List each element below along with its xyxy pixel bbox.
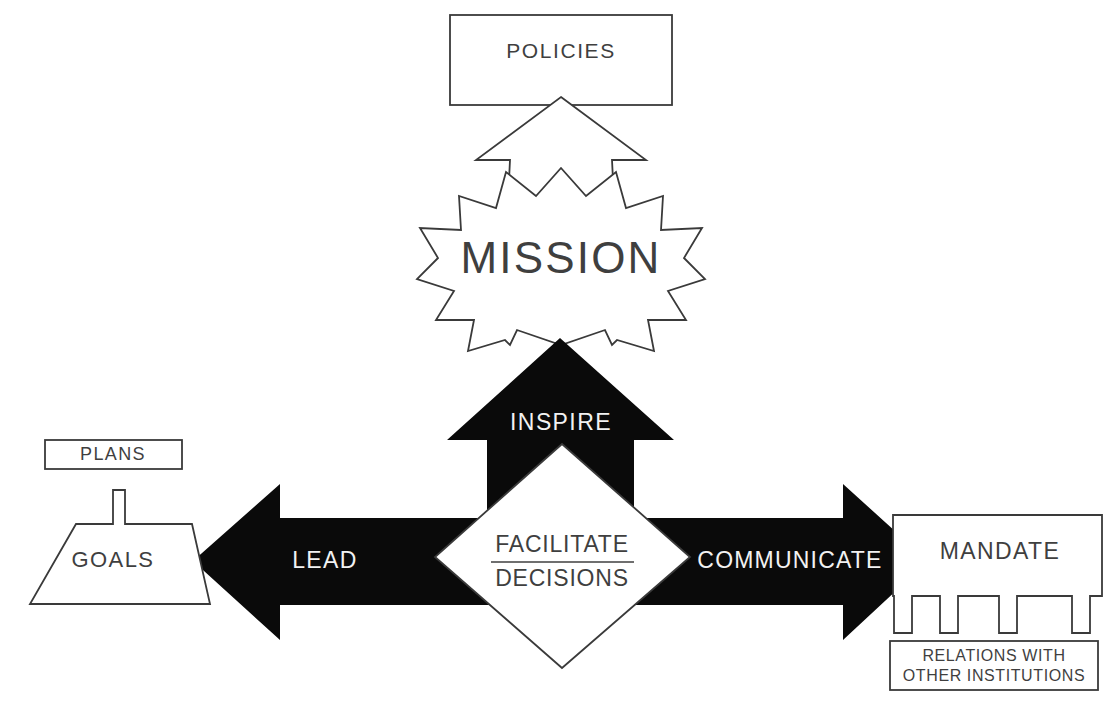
node-mission: MISSION <box>417 168 705 351</box>
policies-label: POLICIES <box>506 39 616 62</box>
figure-caption <box>0 686 1115 703</box>
communicate-label: COMMUNICATE <box>697 547 882 573</box>
mission-leadership-diagram: POLICIES MISSION INSPIRE LEAD COMMUNICAT… <box>0 0 1115 703</box>
inspire-label: INSPIRE <box>510 409 612 435</box>
node-mandate: MANDATE <box>893 515 1102 633</box>
node-policies: POLICIES <box>450 15 672 105</box>
relations-label-line1: RELATIONS WITH <box>922 647 1065 664</box>
goals-label: GOALS <box>72 547 155 572</box>
mandate-comb-shape <box>893 515 1102 633</box>
diagram-canvas: POLICIES MISSION INSPIRE LEAD COMMUNICAT… <box>0 0 1115 703</box>
node-plans: PLANS <box>45 440 182 469</box>
node-goals: GOALS <box>30 490 210 604</box>
node-facilitate-decisions: FACILITATE DECISIONS <box>435 444 690 668</box>
mission-label: MISSION <box>460 233 661 282</box>
decisions-label: DECISIONS <box>495 565 629 591</box>
lead-label: LEAD <box>292 547 358 573</box>
node-relations: RELATIONS WITH OTHER INSTITUTIONS <box>890 641 1098 690</box>
mandate-label: MANDATE <box>940 538 1061 564</box>
plans-label: PLANS <box>80 444 146 464</box>
facilitate-label: FACILITATE <box>495 531 629 557</box>
relations-label-line2: OTHER INSTITUTIONS <box>903 667 1085 684</box>
